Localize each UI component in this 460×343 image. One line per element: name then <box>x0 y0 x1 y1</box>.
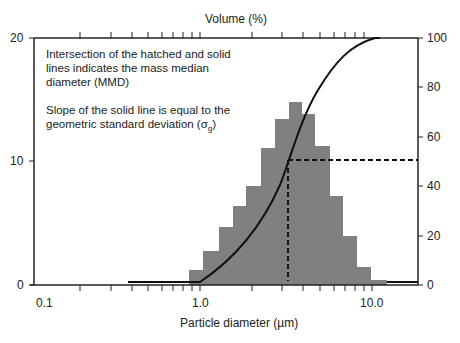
y-right-tick-80: 80 <box>427 80 440 94</box>
x-tick-10.0: 10.0 <box>360 296 383 310</box>
note-slope-text: geometric standard deviation (σ <box>46 118 208 130</box>
note-slope-line2: geometric standard deviation (σg) <box>46 117 230 136</box>
y-right-tick-40: 40 <box>427 179 440 193</box>
note-slope-close: ) <box>212 118 216 130</box>
note-slope-line1: Slope of the solid line is equal to the <box>46 103 230 117</box>
y-right-tick-60: 60 <box>427 130 440 144</box>
x-tick-0.1: 0.1 <box>36 296 53 310</box>
y-left-tick-20: 20 <box>10 31 23 45</box>
y-left-tick-0: 0 <box>17 278 24 292</box>
note-mmd-line3: diameter (MMD) <box>46 75 231 89</box>
y-right-tick-100: 100 <box>427 31 447 45</box>
y-left-tick-10: 10 <box>10 154 23 168</box>
x-axis-title: Particle diameter (µm) <box>180 316 298 330</box>
y-right-tick-20: 20 <box>427 229 440 243</box>
note-mmd: Intersection of the hatched and solid li… <box>46 47 231 89</box>
note-slope: Slope of the solid line is equal to the … <box>46 103 230 136</box>
x-tick-1.0: 1.0 <box>192 296 209 310</box>
note-mmd-line1: Intersection of the hatched and solid <box>46 47 231 61</box>
note-mmd-line2: lines indicates the mass median <box>46 61 231 75</box>
y-right-tick-0: 0 <box>427 278 434 292</box>
top-axis-title: Volume (%) <box>205 12 267 26</box>
